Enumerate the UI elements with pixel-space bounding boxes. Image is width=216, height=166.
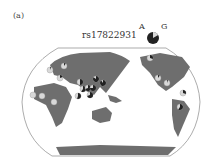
allele-pie bbox=[100, 80, 106, 86]
legend-allele-a: A bbox=[139, 22, 145, 31]
allele-pie bbox=[147, 55, 153, 61]
allele-pie bbox=[39, 93, 45, 99]
allele-pie bbox=[75, 93, 81, 99]
allele-pie bbox=[180, 90, 186, 96]
panel-label: (a) bbox=[13, 11, 24, 20]
allele-pie bbox=[51, 99, 57, 105]
allele-pie bbox=[47, 67, 53, 73]
allele-pie bbox=[77, 79, 83, 85]
world-map bbox=[20, 47, 202, 157]
allele-pie bbox=[90, 85, 96, 91]
landmass-antarctica bbox=[56, 145, 176, 155]
legend-allele-g: G bbox=[161, 22, 167, 31]
allele-pie bbox=[61, 63, 67, 69]
legend-pie-icon bbox=[147, 32, 159, 44]
allele-pie bbox=[177, 104, 183, 110]
snp-title: rs17822931 bbox=[82, 30, 137, 40]
allele-pie bbox=[155, 75, 161, 81]
allele-pie bbox=[30, 92, 36, 98]
allele-pie bbox=[164, 80, 170, 86]
allele-pie bbox=[57, 75, 63, 81]
allele-pie bbox=[93, 76, 99, 82]
allele-pie bbox=[87, 92, 93, 98]
